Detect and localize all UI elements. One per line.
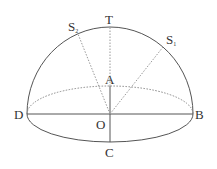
label-t: T bbox=[105, 12, 113, 27]
label-b: B bbox=[195, 107, 204, 122]
segment-os1 bbox=[110, 47, 163, 114]
hemisphere-diagram: T S2 S1 A D B O C bbox=[0, 0, 217, 169]
label-d: D bbox=[14, 107, 23, 122]
label-s1: S1 bbox=[166, 32, 176, 47]
label-o: O bbox=[96, 117, 105, 132]
label-s2: S2 bbox=[68, 19, 78, 34]
label-c: C bbox=[105, 145, 114, 160]
label-a: A bbox=[105, 72, 115, 87]
